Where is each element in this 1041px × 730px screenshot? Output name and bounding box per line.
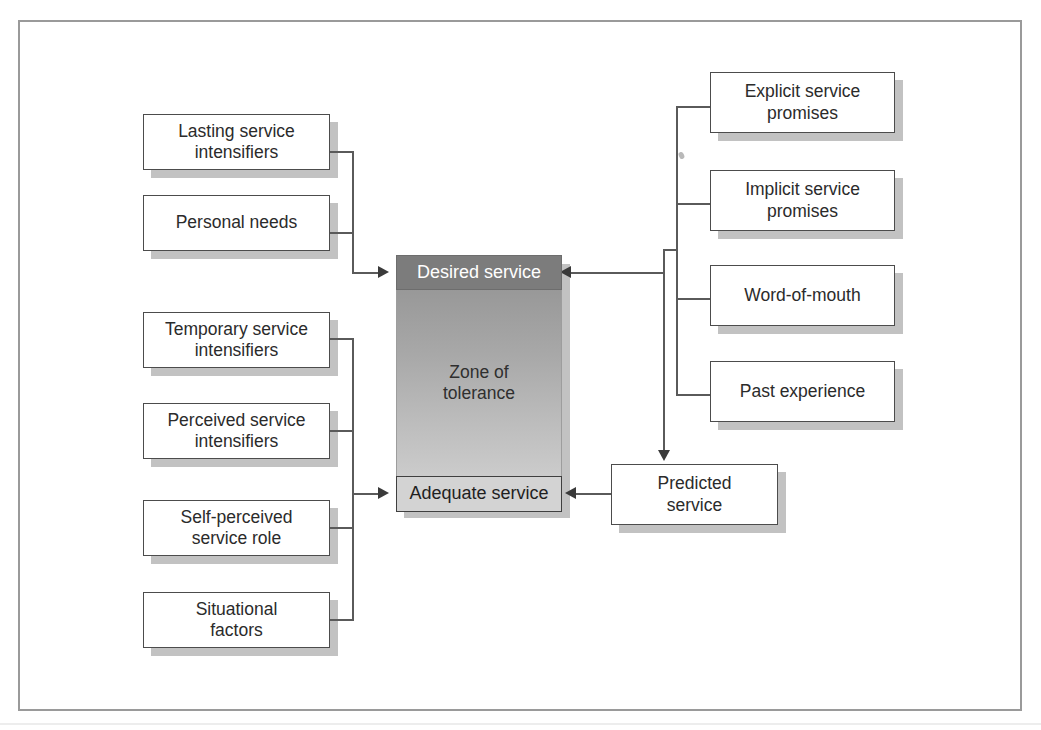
- node-label: Self-perceived service role: [175, 507, 299, 550]
- connector-line: [676, 203, 711, 205]
- connector-line: [352, 493, 380, 495]
- node-temporary-service-intensifiers[interactable]: Temporary service intensifiers: [143, 312, 330, 368]
- node-label: Zone of tolerance: [437, 362, 521, 405]
- connector-line: [676, 394, 711, 396]
- connector-line: [330, 338, 354, 340]
- connector-line: [352, 272, 380, 274]
- node-desired-service[interactable]: Desired service: [396, 255, 562, 290]
- connector-line: [663, 249, 665, 456]
- connector-line: [575, 493, 611, 495]
- node-label: Lasting service intensifiers: [172, 121, 301, 164]
- node-past-experience[interactable]: Past experience: [710, 361, 895, 422]
- node-predicted-service[interactable]: Predicted service: [611, 464, 778, 525]
- node-label: Explicit service promises: [739, 81, 867, 124]
- node-self-perceived-service-role[interactable]: Self-perceived service role: [143, 500, 330, 556]
- node-label: Situational factors: [190, 599, 284, 642]
- connector-line: [352, 338, 354, 620]
- page-edge: [0, 723, 1041, 725]
- connector-line: [330, 527, 354, 529]
- figure-page: Lasting service intensifiers Personal ne…: [0, 0, 1041, 730]
- arrow-to-adequate-service-right: [565, 487, 576, 499]
- connector-line: [676, 298, 711, 300]
- diagram-canvas: Lasting service intensifiers Personal ne…: [0, 0, 1041, 730]
- node-label: Perceived service intensifiers: [161, 410, 311, 453]
- node-situational-factors[interactable]: Situational factors: [143, 592, 330, 648]
- arrow-to-predicted-service: [658, 450, 670, 461]
- scan-artifact-speck: [678, 151, 685, 159]
- node-label: Implicit service promises: [739, 179, 866, 222]
- node-label: Past experience: [734, 381, 872, 402]
- node-explicit-service-promises[interactable]: Explicit service promises: [710, 72, 895, 133]
- connector-line: [330, 619, 354, 621]
- node-word-of-mouth[interactable]: Word-of-mouth: [710, 265, 895, 326]
- connector-line: [676, 106, 711, 108]
- node-label: Temporary service intensifiers: [159, 319, 314, 362]
- node-implicit-service-promises[interactable]: Implicit service promises: [710, 170, 895, 231]
- node-personal-needs[interactable]: Personal needs: [143, 195, 330, 251]
- node-label: Adequate service: [403, 483, 554, 505]
- node-perceived-service-intensifiers[interactable]: Perceived service intensifiers: [143, 403, 330, 459]
- arrow-to-desired-service: [378, 266, 389, 278]
- connector-line: [352, 151, 354, 273]
- node-label: Predicted service: [652, 473, 738, 516]
- connector-line: [663, 249, 677, 251]
- node-label: Desired service: [411, 262, 547, 284]
- connector-line: [330, 232, 354, 234]
- arrow-to-adequate-service: [378, 487, 389, 499]
- node-label: Personal needs: [170, 212, 304, 233]
- connector-line: [330, 430, 354, 432]
- node-lasting-service-intensifiers[interactable]: Lasting service intensifiers: [143, 114, 330, 170]
- node-label: Word-of-mouth: [738, 285, 866, 306]
- node-adequate-service[interactable]: Adequate service: [396, 476, 562, 512]
- node-zone-of-tolerance: Zone of tolerance: [396, 288, 562, 478]
- connector-line: [330, 151, 354, 153]
- connector-line: [570, 272, 665, 274]
